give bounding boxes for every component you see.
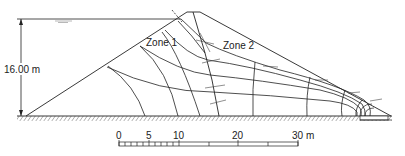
scale-tick-5: 5 [146, 130, 152, 141]
zone-boundary [193, 12, 219, 116]
scale-tick-20: 20 [232, 130, 244, 141]
scale-tick-10: 10 [173, 130, 185, 141]
ground-line [17, 116, 392, 121]
zone2-label: Zone 2 [223, 40, 255, 51]
scale-tick-0: 0 [116, 130, 122, 141]
dam-flow-net-diagram: 16.00 m [0, 0, 405, 156]
scale-tick-30: 30 m [292, 130, 314, 141]
reservoir-water-level [17, 19, 181, 23]
height-label: 16.00 m [4, 64, 40, 75]
dam-outline [26, 12, 391, 116]
zone1-label: Zone 1 [146, 37, 178, 48]
